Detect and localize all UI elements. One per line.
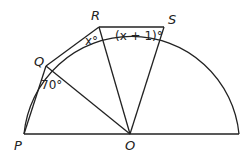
label-q: Q bbox=[34, 54, 44, 69]
geometry-diagram: P Q R S O 70° x° (x + 1)° bbox=[0, 0, 252, 158]
radius-or bbox=[99, 27, 130, 134]
angle-rso: (x + 1)° bbox=[115, 29, 163, 43]
label-r: R bbox=[91, 8, 100, 23]
angle-qro: x° bbox=[85, 34, 98, 48]
angle-pqo: 70° bbox=[41, 78, 62, 92]
label-o: O bbox=[125, 138, 135, 153]
label-p: P bbox=[14, 138, 22, 153]
radius-os bbox=[130, 27, 164, 134]
chord-pq bbox=[24, 66, 46, 134]
radius-oq bbox=[46, 66, 130, 134]
label-s: S bbox=[168, 12, 176, 27]
